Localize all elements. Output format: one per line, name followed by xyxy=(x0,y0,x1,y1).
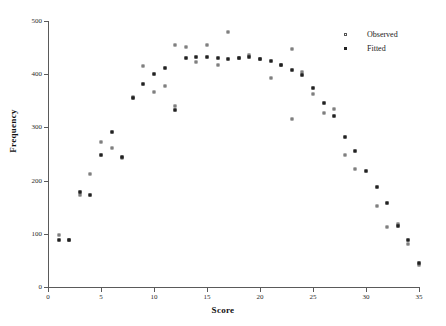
y-tick-label: 400 xyxy=(18,70,42,79)
data-point-observed xyxy=(227,30,230,33)
data-point-fitted xyxy=(206,56,209,59)
data-point-fitted xyxy=(312,86,315,89)
chart-legend: Observed Fitted xyxy=(336,22,419,60)
data-point-fitted xyxy=(57,239,60,242)
data-point-fitted xyxy=(418,262,421,265)
x-tick-label: 25 xyxy=(310,293,317,302)
y-tick-mark xyxy=(44,287,48,288)
data-point-observed xyxy=(290,118,293,121)
data-point-observed xyxy=(78,194,81,197)
x-tick-mark xyxy=(207,288,208,292)
data-point-observed xyxy=(216,63,219,66)
data-point-observed xyxy=(57,233,60,236)
x-tick-label: 10 xyxy=(151,293,158,302)
data-point-observed xyxy=(184,45,187,48)
x-tick-label: 0 xyxy=(46,293,50,302)
y-tick-label: 0 xyxy=(18,283,42,292)
x-axis-title: Score xyxy=(0,305,446,315)
x-tick-mark xyxy=(260,288,261,292)
data-point-fitted xyxy=(195,56,198,59)
filled-square-marker-icon xyxy=(344,47,347,50)
data-point-fitted xyxy=(269,59,272,62)
data-point-observed xyxy=(163,84,166,87)
data-point-observed xyxy=(153,90,156,93)
x-tick-mark xyxy=(48,288,49,292)
data-point-fitted xyxy=(184,57,187,60)
data-point-fitted xyxy=(110,130,113,133)
data-point-observed xyxy=(110,146,113,149)
data-point-observed xyxy=(269,77,272,80)
data-point-fitted xyxy=(227,58,230,61)
x-tick-mark xyxy=(366,288,367,292)
data-point-fitted xyxy=(153,73,156,76)
legend-item-fitted: Fitted xyxy=(336,41,419,55)
data-point-fitted xyxy=(333,114,336,117)
data-point-observed xyxy=(343,154,346,157)
data-point-fitted xyxy=(365,170,368,173)
x-tick-label: 15 xyxy=(204,293,211,302)
x-tick-label: 5 xyxy=(99,293,103,302)
data-point-fitted xyxy=(259,58,262,61)
data-point-fitted xyxy=(343,135,346,138)
data-point-fitted xyxy=(322,102,325,105)
data-point-fitted xyxy=(301,74,304,77)
x-tick-mark xyxy=(419,288,420,292)
y-tick-label: 100 xyxy=(18,229,42,238)
data-point-fitted xyxy=(407,239,410,242)
data-point-observed xyxy=(142,65,145,68)
data-point-fitted xyxy=(396,224,399,227)
data-point-fitted xyxy=(131,97,134,100)
legend-item-observed: Observed xyxy=(336,27,419,41)
x-tick-label: 20 xyxy=(257,293,264,302)
scatter-plot-figure: 05101520253035 0100200300400500 Score Fr… xyxy=(0,0,446,326)
data-point-observed xyxy=(312,93,315,96)
data-point-observed xyxy=(206,43,209,46)
data-point-fitted xyxy=(121,155,124,158)
data-point-fitted xyxy=(237,57,240,60)
data-point-observed xyxy=(375,205,378,208)
data-point-observed xyxy=(354,167,357,170)
x-tick-mark xyxy=(101,288,102,292)
x-tick-mark xyxy=(313,288,314,292)
data-point-fitted xyxy=(354,150,357,153)
y-tick-label: 200 xyxy=(18,176,42,185)
data-point-observed xyxy=(386,226,389,229)
x-tick-label: 35 xyxy=(416,293,423,302)
data-point-fitted xyxy=(163,66,166,69)
data-point-fitted xyxy=(89,194,92,197)
legend-label-observed: Observed xyxy=(367,30,398,39)
x-tick-mark xyxy=(154,288,155,292)
plot-data-area xyxy=(48,21,419,287)
data-point-observed xyxy=(89,173,92,176)
data-point-fitted xyxy=(375,185,378,188)
data-point-fitted xyxy=(100,154,103,157)
data-point-fitted xyxy=(280,63,283,66)
data-point-observed xyxy=(322,112,325,115)
data-point-fitted xyxy=(386,201,389,204)
data-point-fitted xyxy=(68,239,71,242)
data-point-fitted xyxy=(78,191,81,194)
data-point-fitted xyxy=(142,82,145,85)
data-point-observed xyxy=(195,61,198,64)
data-point-observed xyxy=(174,43,177,46)
data-point-observed xyxy=(174,105,177,108)
data-point-observed xyxy=(333,107,336,110)
data-point-observed xyxy=(100,141,103,144)
data-point-fitted xyxy=(174,109,177,112)
data-point-fitted xyxy=(216,57,219,60)
legend-label-fitted: Fitted xyxy=(367,44,386,53)
x-tick-label: 30 xyxy=(363,293,370,302)
data-point-fitted xyxy=(248,56,251,59)
data-point-observed xyxy=(290,48,293,51)
data-point-observed xyxy=(407,243,410,246)
open-square-marker-icon xyxy=(344,33,347,36)
y-tick-label: 500 xyxy=(18,17,42,26)
x-axis-line xyxy=(48,287,420,288)
data-point-fitted xyxy=(290,68,293,71)
y-tick-label: 300 xyxy=(18,123,42,132)
y-axis-title: Frequency xyxy=(8,86,18,176)
